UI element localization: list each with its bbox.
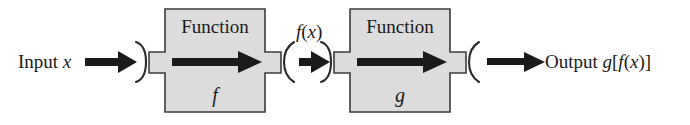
function-box-g-title: Function bbox=[354, 17, 446, 36]
output-close-bracket: ] bbox=[645, 51, 651, 72]
intermediate-label: f(x) bbox=[296, 22, 322, 41]
function-box-f-title: Function bbox=[169, 17, 261, 36]
intermediate-variable: x bbox=[308, 21, 316, 42]
inlet-brace-f bbox=[136, 42, 146, 82]
output-outer-function: g bbox=[603, 51, 613, 72]
outlet-paren-g bbox=[469, 42, 479, 82]
input-label-prefix: Input bbox=[18, 51, 63, 72]
function-box-f-subtitle: f bbox=[169, 85, 261, 105]
function-composition-diagram: Input x f(x) Output g[f(x)] Function f F… bbox=[0, 0, 690, 125]
input-variable: x bbox=[63, 51, 71, 72]
arrow-g-to-output bbox=[487, 52, 545, 72]
output-label: Output g[f(x)] bbox=[545, 52, 651, 71]
arrow-f-to-g bbox=[299, 51, 330, 73]
input-label: Input x bbox=[18, 52, 71, 71]
function-box-g-subtitle: g bbox=[354, 85, 446, 105]
arrow-input-to-f bbox=[85, 51, 137, 73]
intermediate-close-paren: ) bbox=[316, 21, 322, 42]
output-label-prefix: Output bbox=[545, 51, 603, 72]
outlet-paren-f bbox=[284, 42, 294, 82]
